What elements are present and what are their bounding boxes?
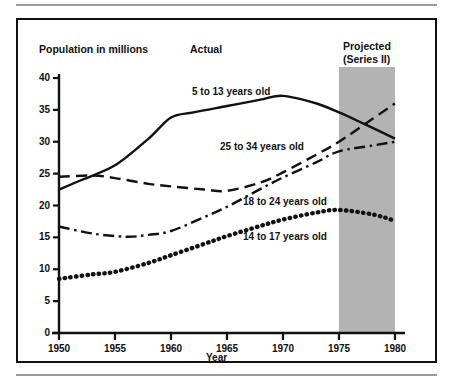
figure-page: Population in millions Actual Projected … xyxy=(0,0,453,384)
period-label-projected-series: (Series II) xyxy=(343,54,390,66)
x-axis-tick-label: 1955 xyxy=(95,343,135,354)
series-label-25-to-34: 25 to 34 years old xyxy=(220,141,304,152)
period-label-projected: Projected xyxy=(343,41,391,53)
series-label-14-to-17: 14 to 17 years old xyxy=(243,231,327,242)
y-axis-tick-label: 15 xyxy=(28,231,50,242)
y-axis-tick-label: 30 xyxy=(28,136,50,147)
y-axis-tick-label: 20 xyxy=(28,200,50,211)
y-axis-title: Population in millions xyxy=(39,44,148,56)
x-axis-tick-label: 1970 xyxy=(263,343,303,354)
x-axis-tick-label: 1960 xyxy=(151,343,191,354)
y-axis-tick-label: 35 xyxy=(28,104,50,115)
period-label-actual: Actual xyxy=(190,44,222,56)
y-axis-tick-label: 25 xyxy=(28,168,50,179)
x-axis-tick-label: 1980 xyxy=(375,343,415,354)
x-axis-tick-label: 1975 xyxy=(319,343,359,354)
series-label-5-to-13: 5 to 13 years old xyxy=(192,86,270,97)
projected-shaded-band xyxy=(339,67,395,333)
y-axis-tick-label: 5 xyxy=(28,295,50,306)
y-axis-tick-label: 10 xyxy=(28,263,50,274)
series-label-18-to-24: 18 to 24 years old xyxy=(243,196,327,207)
x-axis-tick-label: 1950 xyxy=(39,343,79,354)
y-axis-tick-label: 40 xyxy=(28,72,50,83)
y-axis-tick-label: 0 xyxy=(28,327,50,338)
x-axis-title: Year xyxy=(206,352,227,363)
